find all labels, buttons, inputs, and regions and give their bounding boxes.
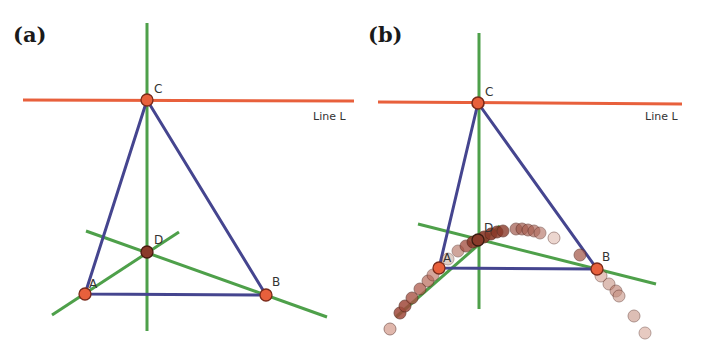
vertex-c[interactable]: [472, 97, 484, 109]
point-label-c: C: [485, 85, 493, 99]
point-label-a: A: [443, 251, 452, 265]
panel-a: (a) Line L C A B D: [13, 22, 354, 331]
vertex-c[interactable]: [141, 94, 153, 106]
line-l[interactable]: [23, 100, 354, 101]
panel-b: (b) Line L: [368, 22, 682, 339]
panel-b-label: (b): [368, 22, 403, 47]
orthocenter-d: [472, 234, 484, 246]
point-label-c: C: [154, 82, 162, 96]
orthocenter-d: [141, 246, 153, 258]
point-label-b: B: [602, 250, 610, 264]
vertex-b[interactable]: [260, 289, 272, 301]
panel-a-label: (a): [13, 22, 46, 47]
orthocenter-diagram: (a) Line L C A B D (b) Line L: [0, 0, 709, 355]
altitude-from-b: [86, 231, 327, 317]
line-l-label: Line L: [313, 110, 346, 123]
vertex-b[interactable]: [591, 263, 603, 275]
line-l-label: Line L: [645, 110, 678, 123]
point-label-d: D: [484, 221, 493, 235]
point-label-d: D: [154, 233, 163, 247]
triangle-abc: [85, 100, 266, 295]
orthocenter-trace: [384, 223, 651, 339]
point-label-b: B: [272, 275, 280, 289]
line-l[interactable]: [378, 102, 682, 104]
point-label-a: A: [89, 277, 98, 291]
